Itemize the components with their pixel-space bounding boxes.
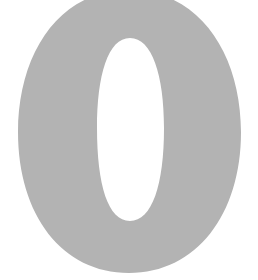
numeral-zero-graphic: 0 (0, 0, 258, 280)
zero-digit-icon (0, 0, 258, 280)
